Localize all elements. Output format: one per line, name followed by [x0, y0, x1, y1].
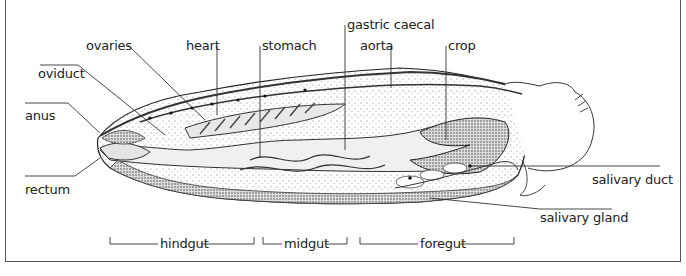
label-salivary-duct: salivary duct [592, 172, 673, 187]
region-midgut: midgut [284, 236, 329, 251]
label-oviduct: oviduct [38, 66, 85, 81]
region-foregut: foregut [420, 236, 466, 251]
label-stomach: stomach [262, 38, 316, 53]
region-hindgut: hindgut [160, 236, 209, 251]
label-salivary-gland: salivary gland [540, 210, 628, 225]
label-anus: anus [25, 108, 55, 123]
label-heart: heart [186, 38, 220, 53]
label-rectum: rectum [25, 182, 70, 197]
label-ovaries: ovaries [86, 38, 132, 53]
label-gastric-caecal: gastric caecal [347, 17, 434, 32]
label-aorta: aorta [360, 38, 393, 53]
label-crop: crop [448, 38, 476, 53]
